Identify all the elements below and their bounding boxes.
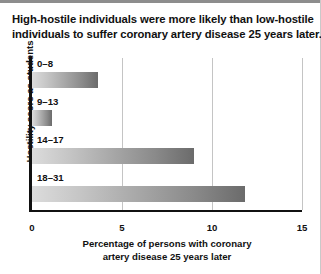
page-top-rule	[0, 0, 321, 3]
plot-area: 0–8 9–13 14–17 18–31 0 5 10 15	[32, 58, 302, 210]
bar-row-9-13: 9–13	[32, 96, 302, 134]
bar-row-14-17: 14–17	[32, 134, 302, 172]
xtick-label-10: 10	[207, 222, 218, 233]
page-footnote	[14, 268, 309, 274]
figure-title-line-2: individuals to suffer coronary artery di…	[12, 27, 310, 42]
x-axis-title: Percentage of persons with coronary arte…	[32, 238, 302, 263]
xtick-label-15: 15	[297, 222, 308, 233]
bar-9-13	[32, 110, 52, 126]
bar-label-14-17: 14–17	[37, 134, 64, 145]
bar-row-18-31: 18–31	[32, 172, 302, 210]
gridline-15	[302, 58, 303, 210]
x-axis-title-line-1: Percentage of persons with coronary	[32, 238, 302, 251]
bar-label-0-8: 0–8	[37, 58, 53, 69]
figure-title-line-1: High-hostile individuals were more likel…	[12, 12, 310, 27]
bar-label-9-13: 9–13	[37, 96, 58, 107]
xtick-label-0: 0	[29, 222, 34, 233]
x-axis-title-line-2: artery disease 25 years later	[32, 251, 302, 264]
bar-chart: Hostility score as students 0–8 9–13 14–…	[0, 50, 321, 274]
xtick-label-5: 5	[119, 222, 124, 233]
bar-18-31	[32, 186, 245, 202]
x-axis-line	[29, 210, 302, 212]
bar-label-18-31: 18–31	[37, 172, 64, 183]
figure-title: High-hostile individuals were more likel…	[12, 12, 310, 41]
bar-14-17	[32, 148, 194, 164]
bar-0-8	[32, 72, 98, 88]
figure-page: High-hostile individuals were more likel…	[0, 0, 321, 274]
bar-row-0-8: 0–8	[32, 58, 302, 96]
